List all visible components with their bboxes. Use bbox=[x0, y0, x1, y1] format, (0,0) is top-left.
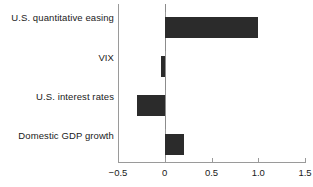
x-tick-label-1: 0 bbox=[145, 167, 185, 178]
bar-gdp-growth bbox=[165, 134, 185, 155]
x-tick-4 bbox=[305, 158, 306, 163]
x-tick-2 bbox=[212, 158, 213, 163]
category-tick-0 bbox=[165, 12, 166, 17]
x-tick-0 bbox=[118, 158, 119, 163]
x-tick-3 bbox=[258, 158, 259, 163]
bar-interest-rates bbox=[137, 95, 165, 116]
category-label-vix: VIX bbox=[0, 52, 118, 63]
category-tick-3 bbox=[165, 129, 166, 134]
axis-spine-left bbox=[118, 4, 119, 163]
bar-vix bbox=[161, 56, 165, 77]
category-tick-1 bbox=[165, 51, 166, 56]
x-tick-label-2: 0.5 bbox=[192, 167, 232, 178]
x-tick-label-4: 1.5 bbox=[285, 167, 313, 178]
plot-area bbox=[118, 4, 305, 163]
x-tick-1 bbox=[165, 158, 166, 163]
category-tick-2 bbox=[165, 90, 166, 95]
category-label-gdp-growth: Domestic GDP growth bbox=[0, 130, 118, 141]
x-tick-label-0: −0.5 bbox=[98, 167, 138, 178]
category-label-interest-rates: U.S. interest rates bbox=[0, 91, 118, 102]
x-tick-label-3: 1.0 bbox=[238, 167, 278, 178]
bar-quantitative-easing bbox=[165, 17, 259, 38]
category-label-quantitative-easing: U.S. quantitative easing bbox=[0, 12, 118, 23]
bar-chart: U.S. quantitative easing VIX U.S. intere… bbox=[0, 0, 313, 187]
